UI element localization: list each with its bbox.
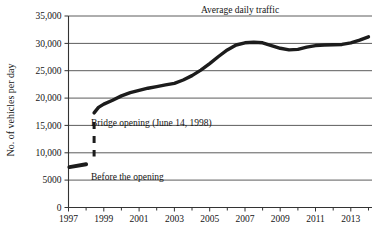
y-axis-tick-label: 5000 — [43, 175, 62, 185]
y-axis-tick-label: 0 — [57, 203, 62, 213]
x-axis-tick-label: 2013 — [341, 214, 360, 224]
y-axis-tick-label: 25,000 — [35, 66, 61, 76]
x-axis-tick-label: 2005 — [200, 214, 219, 224]
before-the-opening-annotation-label: Before the opening — [91, 172, 164, 182]
x-axis-tick-label: 2001 — [130, 214, 149, 224]
x-axis-tick-label: 1999 — [94, 214, 113, 224]
average-daily-traffic-line-chart: Average daily traffic No. of vehicles pe… — [0, 0, 388, 248]
x-axis-tick-labels: 199719992001200320052007200920112013 — [59, 214, 361, 224]
y-axis-tick-label: 15,000 — [35, 121, 61, 131]
chart-container: Average daily traffic No. of vehicles pe… — [0, 0, 388, 248]
bridge-opening-annotation-label: Bridge opening (June 14, 1998) — [91, 118, 212, 129]
x-axis-tick-label: 2011 — [306, 214, 325, 224]
y-axis-title: No. of vehicles per day — [5, 63, 16, 156]
chart-title: Average daily traffic — [201, 5, 279, 15]
x-axis-tick-label: 1997 — [59, 214, 78, 224]
before-the-opening-line-sample — [69, 164, 86, 167]
y-axis-tick-label: 30,000 — [35, 39, 61, 49]
y-axis-tick-label: 35,000 — [35, 11, 61, 21]
y-axis-tick-label: 20,000 — [35, 93, 61, 103]
x-axis-tick-label: 2009 — [271, 214, 290, 224]
before-the-opening-segment — [69, 164, 86, 167]
x-axis-tick-label: 2007 — [236, 214, 255, 224]
y-axis-tick-label: 10,000 — [35, 148, 61, 158]
x-axis-tick-label: 2003 — [165, 214, 184, 224]
